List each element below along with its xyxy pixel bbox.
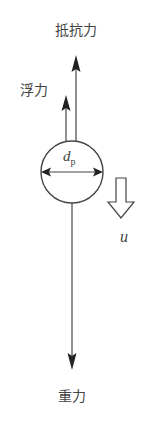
buoyancy-force-arrow [62, 95, 71, 142]
diameter-symbol: d [63, 148, 71, 164]
gravity-force-arrow [68, 203, 77, 370]
drag-force-label: 抵抗力 [55, 22, 97, 38]
drag-force-arrow [72, 55, 81, 141]
buoyancy-force-label: 浮力 [20, 82, 48, 98]
diameter-subscript: p [71, 156, 76, 167]
velocity-arrow-icon [108, 178, 134, 218]
velocity-label: u [120, 229, 128, 245]
diameter-label: dp [63, 148, 76, 170]
force-diagram [0, 0, 151, 424]
gravity-force-label: 重力 [58, 388, 86, 404]
